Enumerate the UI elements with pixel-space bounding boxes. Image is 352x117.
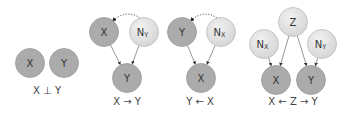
panel-caption: X ⊥ Y: [33, 85, 62, 96]
panel-caption: X ← Z → Y: [268, 96, 318, 107]
node-nx: NX: [250, 30, 279, 59]
node-label: Y: [123, 73, 131, 84]
node-label: Y: [178, 27, 186, 38]
edge-z-to-y: [297, 36, 306, 66]
node-label: X: [101, 27, 108, 38]
edge-y-to-x: [188, 45, 196, 64]
node-label: X: [198, 73, 205, 84]
node-ny: NY: [308, 30, 337, 59]
panel-x-causes-y: XNYYX → Y: [90, 14, 159, 107]
node-label: Z: [290, 17, 297, 28]
panel-common-cause: ZNXNYXYX ← Z → Y: [250, 8, 337, 108]
edge-nx-to-x: [269, 58, 272, 66]
edge-z-to-x: [280, 36, 289, 66]
edge-ny-to-y: [315, 58, 317, 66]
panel-independent: XYX ⊥ Y: [16, 49, 79, 97]
panel-caption: X → Y: [113, 96, 142, 107]
node-label: X: [27, 58, 34, 69]
node-x: X: [262, 66, 291, 95]
node-y: Y: [168, 18, 197, 47]
panel-y-from-x: YNXXY ← X: [168, 14, 236, 107]
panel-caption: Y ← X: [185, 96, 214, 107]
causal-diagram: XYX ⊥ Y XNYYX → Y YNXXY ← X ZNXNYXYX ← Z…: [0, 0, 352, 117]
node-label: Y: [307, 75, 315, 86]
node-ny: NY: [130, 18, 159, 47]
node-label: Y: [60, 58, 68, 69]
node-y: Y: [113, 64, 142, 93]
node-nx: NX: [207, 18, 236, 47]
node-x: X: [16, 49, 45, 78]
edge-nx-to-x: [207, 45, 215, 64]
node-y: Y: [50, 49, 79, 78]
node-y: Y: [297, 66, 326, 95]
node-label: X: [273, 75, 280, 86]
edge-ny-to-y: [132, 46, 139, 64]
edge-x-to-y: [110, 45, 120, 65]
node-x: X: [90, 18, 119, 47]
node-x: X: [187, 64, 216, 93]
node-z: Z: [279, 8, 308, 37]
